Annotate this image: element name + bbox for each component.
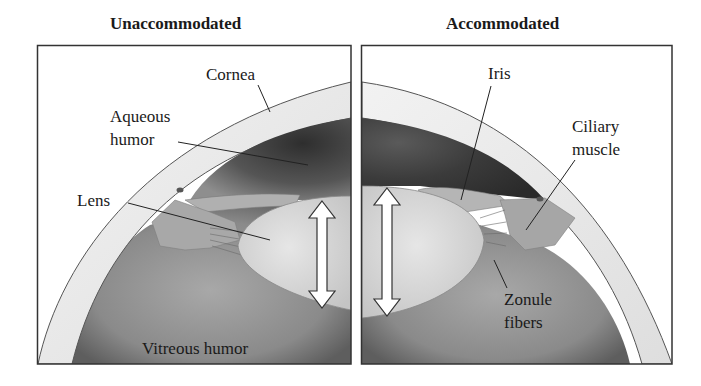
schlemm-canal-dot	[177, 188, 184, 193]
cornea-leader	[258, 85, 270, 112]
schlemm-canal-dot-right	[537, 197, 544, 202]
label-zonule-line1: Zonule	[504, 290, 552, 309]
label-cornea: Cornea	[206, 65, 256, 84]
label-aqueous-line1: Aqueous	[110, 107, 170, 126]
eye-accommodation-diagram: Cornea Aqueous humor Lens Vitreous humor	[0, 0, 701, 386]
label-ciliary-line2: muscle	[572, 140, 620, 159]
label-vitreous-humor: Vitreous humor	[142, 339, 248, 358]
label-lens: Lens	[77, 191, 110, 210]
left-panel-unaccommodated: Cornea Aqueous humor Lens Vitreous humor	[38, 46, 352, 365]
label-iris: Iris	[488, 64, 511, 83]
label-ciliary-line1: Ciliary	[572, 117, 620, 136]
label-aqueous-line2: humor	[110, 130, 155, 149]
label-zonule-line2: fibers	[504, 313, 543, 332]
right-panel-accommodated: Iris Ciliary muscle Zonule fibers	[362, 46, 673, 365]
